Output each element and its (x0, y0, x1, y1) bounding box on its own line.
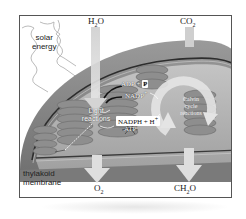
nadph-box: NADPH + H+ (116, 116, 160, 126)
adp-text: ADP + (121, 80, 142, 88)
nadp-superscript: + (144, 90, 147, 96)
thylakoid-membrane-label: thylakoid membrane (23, 169, 61, 187)
thylakoid-line2: membrane (23, 178, 61, 187)
calvin-line2: cycle (176, 103, 206, 110)
water-label: H2O (88, 16, 104, 28)
phosphate-badge: P (142, 80, 148, 88)
nadp-label: NADP+ (125, 90, 147, 100)
water-formula-rest: O (98, 16, 105, 26)
light-reactions-line2: reactions (79, 115, 113, 123)
atp-label: ATP (124, 125, 136, 133)
solar-energy-label: solar energy (32, 33, 56, 51)
calvin-line1: Calvin (176, 96, 206, 103)
sugar-formula-rest: O (190, 183, 197, 193)
solar-energy-line2: energy (32, 42, 56, 51)
sugar-label: CH2O (174, 183, 196, 195)
oxygen-subscript: 2 (101, 189, 104, 195)
nadp-text: NADP (125, 92, 144, 100)
co2-formula: CO (180, 16, 193, 26)
thylakoid-line1: thylakoid (23, 169, 61, 178)
co2-input-arrow (185, 27, 194, 47)
atp-text: ATP (124, 125, 136, 133)
calvin-line3: reactions (176, 110, 206, 117)
co2-label: CO2 (180, 16, 196, 28)
calvin-cycle-label: Calvin cycle reactions (176, 96, 206, 117)
co2-subscript: 2 (193, 22, 196, 28)
sugar-formula: CH (174, 183, 187, 193)
light-reactions-line1: Light (79, 107, 113, 115)
nadph-superscript: + (155, 116, 158, 122)
oxygen-label: O2 (94, 183, 104, 195)
solar-energy-line1: solar (32, 33, 56, 42)
adp-p-label: ADP + P (121, 80, 148, 88)
light-reactions-label: Light reactions (79, 107, 113, 123)
